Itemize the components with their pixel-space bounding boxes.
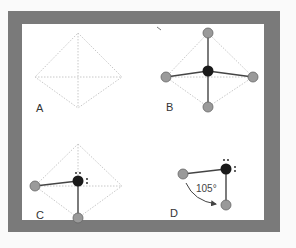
central-atom bbox=[203, 66, 214, 77]
panel-a: A bbox=[35, 33, 122, 114]
substituent-atom bbox=[73, 213, 83, 223]
substituent-atom bbox=[203, 28, 213, 38]
panel-b: B bbox=[161, 28, 258, 113]
panel-label-b: B bbox=[166, 101, 173, 113]
substituent-atom bbox=[248, 72, 258, 82]
substituent-atom bbox=[203, 102, 213, 112]
substituent-atom bbox=[221, 200, 231, 210]
central-atom bbox=[221, 164, 232, 175]
panel-d: 105° D bbox=[170, 159, 236, 219]
substituent-atom bbox=[30, 181, 40, 191]
bond-angle-label: 105° bbox=[196, 183, 217, 194]
substituent-atom bbox=[178, 169, 188, 179]
panel-label-d: D bbox=[170, 207, 178, 219]
panel-label-a: A bbox=[36, 102, 44, 114]
panel-label-c: C bbox=[36, 209, 44, 221]
panel-c: C bbox=[30, 144, 122, 223]
substituent-atom bbox=[161, 72, 171, 82]
tetrahedron-outline bbox=[35, 33, 122, 108]
stray-mark bbox=[157, 27, 161, 30]
central-atom bbox=[73, 176, 84, 187]
molecular-geometry-diagram: A B bbox=[0, 0, 296, 248]
